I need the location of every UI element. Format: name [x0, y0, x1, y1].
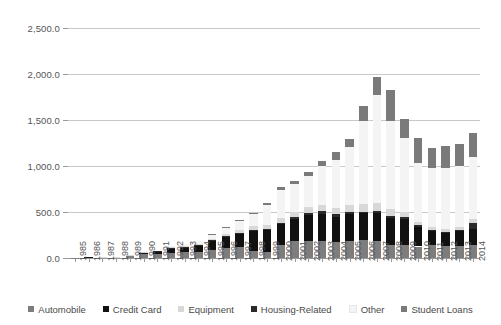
bar-segment — [332, 160, 341, 208]
legend-swatch-icon — [251, 306, 257, 312]
bar-column[interactable] — [373, 28, 382, 258]
bar-column[interactable] — [386, 28, 395, 258]
bar-segment — [373, 77, 382, 95]
bar-column[interactable] — [318, 28, 327, 258]
x-axis-tick-label: 2010 — [422, 241, 432, 261]
bar-segment — [455, 166, 464, 227]
bar-segment — [222, 234, 231, 236]
bar-segment — [469, 219, 478, 223]
bar-segment — [277, 187, 286, 190]
legend-label: Equipment — [188, 304, 233, 315]
x-axis-tick-label: 1998 — [257, 241, 267, 261]
legend-swatch-icon — [178, 306, 184, 312]
bar-segment — [359, 212, 368, 214]
bar-segment — [290, 181, 299, 184]
bar-column[interactable] — [112, 28, 121, 258]
bar-segment — [222, 227, 231, 233]
bar-segment — [263, 205, 272, 225]
bar-segment — [455, 144, 464, 166]
bar-segment — [428, 230, 437, 231]
y-axis-tick-label: 1,000.0 — [28, 161, 60, 172]
bar-segment — [332, 152, 341, 160]
bar-column[interactable] — [139, 28, 148, 258]
bar-column[interactable] — [359, 28, 368, 258]
bar-segment — [332, 208, 341, 214]
bar-column[interactable] — [263, 28, 272, 258]
bar-segment — [277, 218, 286, 223]
bar-column[interactable] — [180, 28, 189, 258]
x-axis-tick-mark — [185, 259, 186, 262]
bar-segment — [359, 204, 368, 211]
legend-item[interactable]: Student Loans — [401, 304, 472, 315]
x-axis-tick-mark — [253, 259, 254, 262]
bar-segment — [386, 216, 395, 218]
bar-column[interactable] — [249, 28, 258, 258]
bar-column[interactable] — [345, 28, 354, 258]
bar-segment — [290, 219, 299, 241]
x-axis-tick-mark — [102, 259, 103, 262]
bar-segment — [332, 217, 341, 243]
bar-segment — [235, 233, 244, 234]
bar-segment — [263, 225, 272, 229]
x-axis-tick-label: 2000 — [284, 241, 294, 261]
bar-segment — [359, 213, 368, 240]
bar-segment — [441, 168, 450, 229]
bar-segment — [455, 227, 464, 230]
bar-column[interactable] — [469, 28, 478, 258]
bar-column[interactable] — [277, 28, 286, 258]
bar-segment — [304, 176, 313, 208]
x-axis-tick-label: 2006 — [367, 241, 377, 261]
bar-segment — [263, 229, 272, 230]
bar-segment — [373, 211, 382, 213]
legend-item[interactable]: Automobile — [28, 304, 86, 315]
bar-column[interactable] — [441, 28, 450, 258]
bar-column[interactable] — [400, 28, 409, 258]
bar-column[interactable] — [84, 28, 93, 258]
legend-item[interactable]: Housing-Related — [251, 304, 332, 315]
bar-segment — [428, 168, 437, 227]
bar-column[interactable] — [304, 28, 313, 258]
bar-column[interactable] — [428, 28, 437, 258]
x-axis-tick-mark — [391, 259, 392, 262]
x-axis-tick-label: 2012 — [449, 241, 459, 261]
x-axis-tick-mark — [198, 259, 199, 262]
legend-swatch-icon — [349, 305, 357, 313]
bar-column[interactable] — [98, 28, 107, 258]
bar-column[interactable] — [290, 28, 299, 258]
legend-item[interactable]: Equipment — [178, 304, 233, 315]
x-axis-tick-mark — [130, 259, 131, 262]
bar-column[interactable] — [71, 28, 80, 258]
x-axis-tick-mark — [377, 259, 378, 262]
x-axis-tick-mark — [308, 259, 309, 262]
bar-segment — [304, 213, 313, 215]
x-axis-tick-label: 1999 — [271, 241, 281, 261]
bar-column[interactable] — [208, 28, 217, 258]
bar-column[interactable] — [167, 28, 176, 258]
x-axis-tick-label: 2005 — [353, 241, 363, 261]
bar-column[interactable] — [332, 28, 341, 258]
bar-segment — [222, 236, 231, 237]
bar-segment — [428, 148, 437, 168]
bar-segment — [304, 215, 313, 241]
bar-column[interactable] — [222, 28, 231, 258]
bar-column[interactable] — [126, 28, 135, 258]
x-axis-tick-mark — [473, 259, 474, 262]
legend-item[interactable]: Credit Card — [103, 304, 162, 315]
legend-label: Student Loans — [411, 304, 472, 315]
legend-item[interactable]: Other — [349, 304, 385, 315]
bar-segment — [304, 207, 313, 213]
bar-segment — [208, 239, 217, 241]
x-axis-tick-mark — [418, 259, 419, 262]
bar-column[interactable] — [414, 28, 423, 258]
x-axis-tick-label: 1991 — [161, 241, 171, 261]
stacked-bar-chart: 0.0500.01,000.01,500.02,000.02,500.0 198… — [0, 0, 501, 325]
bar-segment — [290, 184, 299, 212]
x-axis-tick-label: 1995 — [216, 241, 226, 261]
bar-column[interactable] — [455, 28, 464, 258]
x-axis-tick-label: 1993 — [188, 241, 198, 261]
bar-column[interactable] — [235, 28, 244, 258]
x-axis-tick-mark — [144, 259, 145, 262]
bar-segment — [249, 214, 258, 226]
bar-column[interactable] — [194, 28, 203, 258]
bar-column[interactable] — [153, 28, 162, 258]
